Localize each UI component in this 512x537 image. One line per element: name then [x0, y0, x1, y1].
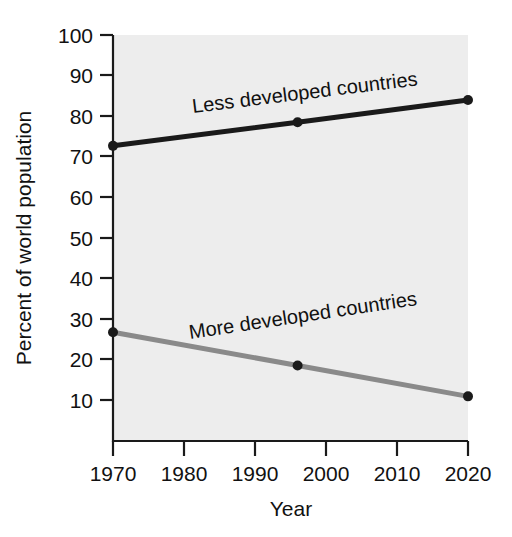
line-chart-svg: 100 90 80 70 60 50 40 30 20 10 1970 1980…: [0, 0, 512, 537]
y-tick-label: 60: [70, 186, 93, 209]
data-point: [108, 141, 118, 151]
x-tick-marks: [113, 441, 468, 456]
y-tick-label: 40: [70, 267, 93, 290]
x-tick-label: 1980: [161, 462, 208, 485]
data-point: [293, 360, 303, 370]
y-tick-label: 70: [70, 145, 93, 168]
y-tick-label: 30: [70, 308, 93, 331]
x-tick-label: 2020: [445, 462, 492, 485]
x-tick-label: 2010: [374, 462, 421, 485]
y-tick-label: 100: [58, 24, 93, 47]
x-tick-label: 2000: [303, 462, 350, 485]
y-tick-marks: [100, 35, 113, 400]
y-axis-title: Percent of world population: [12, 111, 35, 366]
data-point: [463, 391, 473, 401]
y-tick-label: 20: [70, 348, 93, 371]
data-point: [463, 95, 473, 105]
y-tick-label: 80: [70, 105, 93, 128]
x-tick-label: 1990: [232, 462, 279, 485]
x-tick-label: 1970: [90, 462, 137, 485]
y-tick-label: 90: [70, 64, 93, 87]
chart-figure: 100 90 80 70 60 50 40 30 20 10 1970 1980…: [0, 0, 512, 537]
x-tick-labels: 1970 1980 1990 2000 2010 2020: [90, 462, 492, 485]
x-axis-title: Year: [270, 497, 312, 520]
y-tick-label: 10: [70, 389, 93, 412]
y-tick-label: 50: [70, 227, 93, 250]
data-point: [293, 117, 303, 127]
data-point: [108, 327, 118, 337]
y-tick-labels: 100 90 80 70 60 50 40 30 20 10: [58, 24, 93, 412]
